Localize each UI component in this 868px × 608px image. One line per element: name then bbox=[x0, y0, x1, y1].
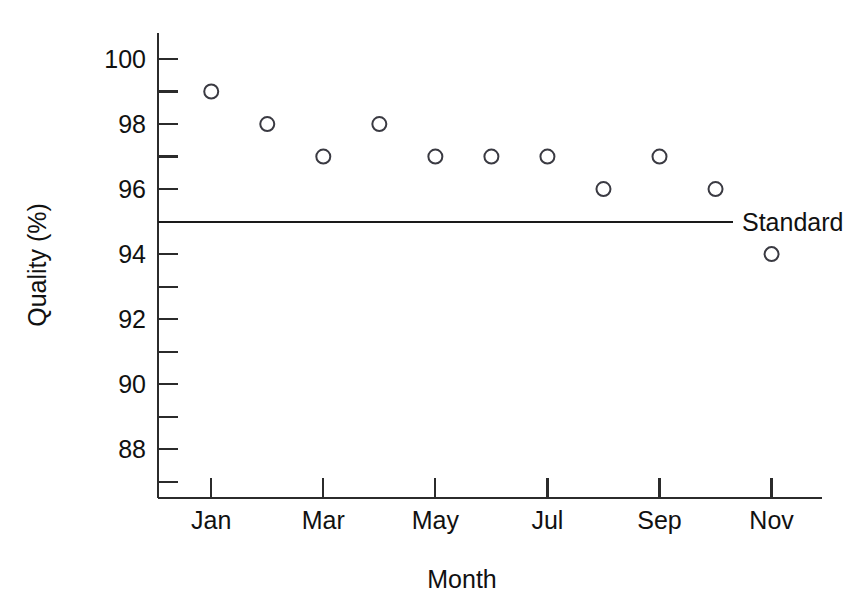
y-tick-label: 94 bbox=[118, 240, 146, 268]
x-tick-label: May bbox=[412, 506, 460, 534]
x-tick-label: Sep bbox=[637, 506, 681, 534]
y-tick-label: 92 bbox=[118, 305, 146, 333]
x-tick-label: Jan bbox=[191, 506, 231, 534]
reference-line-label-group: Standard bbox=[742, 208, 843, 236]
y-tick-label: 96 bbox=[118, 175, 146, 203]
y-tick-label: 88 bbox=[118, 435, 146, 463]
x-tick-label: Nov bbox=[749, 506, 794, 534]
x-axis-title: Month bbox=[427, 565, 496, 593]
chart-canvas: 100989694929088 JanMarMayJulSepNov Stand… bbox=[0, 0, 868, 608]
standard-reference-label: Standard bbox=[742, 208, 843, 236]
y-tick-label: 100 bbox=[104, 45, 146, 73]
x-tick-label: Mar bbox=[302, 506, 345, 534]
y-tick-label: 98 bbox=[118, 110, 146, 138]
y-axis-title: Quality (%) bbox=[23, 203, 51, 327]
y-tick-label: 90 bbox=[118, 370, 146, 398]
x-tick-label: Jul bbox=[531, 506, 563, 534]
quality-chart: 100989694929088 JanMarMayJulSepNov Stand… bbox=[0, 0, 868, 608]
